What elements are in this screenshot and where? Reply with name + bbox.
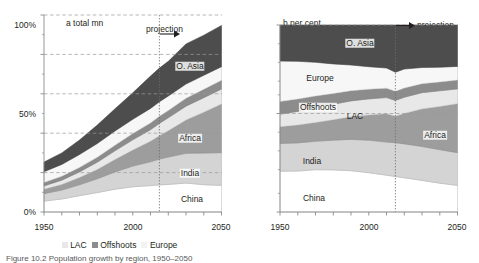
legend-label-lac: LAC [70, 240, 87, 250]
y-tick-label: 100% [14, 21, 36, 30]
panel-b-per-cent: b per cent projection 0% 50% 100% 1950 2… [239, 0, 479, 261]
area-label-africa: Africa [423, 131, 447, 140]
area-label-other-asia: O. Asia [345, 39, 374, 48]
legend-item-lac[interactable]: LAC [62, 240, 87, 250]
area-label-other-asia: O. Asia [175, 62, 204, 71]
legend-label-europe: Europe [150, 240, 177, 250]
legend-swatch-europe [141, 242, 147, 248]
area-label-india: India [302, 157, 322, 166]
y-tick-label: 50% [19, 109, 36, 118]
area-label-lac: LAC [346, 112, 365, 121]
area-label-europe: Europe [305, 74, 334, 83]
legend-label-offshoots: Offshoots [100, 240, 136, 250]
area-label-china: China [180, 195, 204, 204]
figure-caption: Figure 10.2 Population growth by region,… [6, 254, 476, 263]
legend-swatch-lac [62, 242, 68, 248]
projection-arrow-icon [160, 31, 180, 38]
legend-item-europe[interactable]: Europe [141, 240, 177, 250]
area-label-china: China [302, 194, 326, 203]
panel-a-plot [0, 0, 240, 240]
area-label-africa: Africa [178, 134, 202, 143]
panel-a-total-mn: a total mn projection 0 2,000 4,000 6,00… [0, 0, 240, 261]
area-label-india: India [180, 169, 200, 178]
legend-swatch-offshoots [92, 242, 98, 248]
area-label-offshoots: Offshoots [299, 103, 337, 112]
legend-item-offshoots[interactable]: Offshoots [92, 240, 137, 250]
y-tick-label: 0% [24, 208, 36, 217]
legend: LAC Offshoots Europe [0, 238, 239, 252]
